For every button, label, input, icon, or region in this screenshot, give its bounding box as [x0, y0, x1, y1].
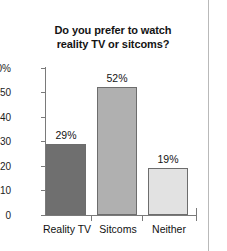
bar-sitcoms[interactable]	[97, 87, 137, 215]
bar-chart: Do you prefer to watch reality TV or sit…	[0, 0, 227, 251]
y-tick-0	[41, 215, 45, 216]
page-divider	[208, 0, 209, 251]
x-tick-3	[196, 216, 197, 221]
bar-value-reality-tv: 29%	[36, 129, 96, 141]
chart-title-line-1: Do you prefer to watch	[28, 24, 198, 38]
y-axis-label-0: 0	[0, 210, 11, 221]
x-axis-right-cap	[196, 208, 197, 216]
y-tick-20	[41, 166, 45, 167]
x-tick-2	[142, 216, 143, 221]
chart-title: Do you prefer to watch reality TV or sit…	[28, 24, 198, 51]
y-tick-40	[41, 117, 45, 118]
y-tick-30	[41, 141, 45, 142]
bar-value-neither: 19%	[138, 153, 198, 165]
x-tick-1	[91, 216, 92, 221]
x-axis-line	[45, 215, 197, 216]
bar-reality-tv[interactable]	[46, 144, 86, 215]
y-tick-10	[41, 190, 45, 191]
y-axis-label-50: 50	[0, 87, 11, 98]
bar-value-sitcoms: 52%	[87, 72, 147, 84]
y-tick-60	[41, 68, 45, 69]
bar-neither[interactable]	[148, 168, 188, 215]
y-axis-label-20: 20	[0, 161, 11, 172]
y-axis-label-40: 40	[0, 112, 11, 123]
chart-title-line-2: reality TV or sitcoms?	[28, 38, 198, 52]
y-axis-label-30: 30	[0, 136, 11, 147]
y-axis-label-60: 60%	[0, 63, 11, 74]
x-axis-label-neither: Neither	[138, 223, 200, 235]
y-tick-50	[41, 92, 45, 93]
y-axis-label-10: 10	[0, 185, 11, 196]
plot-area: 0 10 20 30 40 50 60% 29% 52% 19% Reality…	[45, 67, 197, 216]
